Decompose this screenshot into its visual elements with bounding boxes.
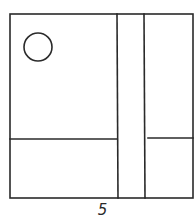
vertical-line-right — [144, 14, 145, 198]
vertical-line-left — [117, 14, 118, 198]
diagram-canvas — [0, 0, 195, 220]
figure-label: 5 — [0, 201, 195, 219]
circle-shape — [24, 33, 52, 61]
outer-frame — [10, 14, 193, 198]
